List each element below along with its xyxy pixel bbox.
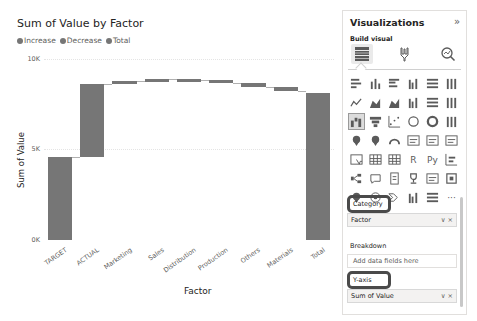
viz-goals-icon[interactable] <box>405 170 422 187</box>
analytics-magnifier-icon <box>440 46 456 62</box>
viz-gauge-icon[interactable] <box>386 132 403 149</box>
viz-card-icon[interactable] <box>405 132 422 149</box>
y-axis-well-label: Y-axis <box>347 271 391 289</box>
connector-line <box>266 87 274 88</box>
viz-clustered-bar-icon[interactable] <box>386 75 403 92</box>
connector-line <box>169 79 177 80</box>
waterfall-bar-production[interactable] <box>209 80 233 84</box>
x-axis-title: Factor <box>184 286 212 296</box>
viz-waterfall-icon[interactable] <box>348 113 365 130</box>
viz-funnel-icon[interactable] <box>367 113 384 130</box>
viz-stacked-column-icon[interactable] <box>367 75 384 92</box>
x-tick-label: TARGET <box>15 246 69 287</box>
pane-scrollbar[interactable] <box>460 197 463 307</box>
y-tick-label: 0K <box>14 236 40 244</box>
waterfall-bar-materials[interactable] <box>274 87 298 91</box>
visualizations-pane: Visualizations » Build visual RPy··· Cat… <box>342 10 467 315</box>
visual-type-gallery: RPy··· <box>348 75 460 207</box>
chart-title: Sum of Value by Factor <box>17 17 144 30</box>
legend-dot-icon <box>106 38 112 44</box>
legend-dot-icon <box>17 38 23 44</box>
legend-item-increase[interactable]: Increase <box>17 36 56 45</box>
viz-clustered-column-icon[interactable] <box>405 75 422 92</box>
viz-qa-icon[interactable] <box>367 170 384 187</box>
viz-100-bar-icon[interactable] <box>424 75 441 92</box>
viz-matrix-icon[interactable] <box>386 151 403 168</box>
legend-item-decrease[interactable]: Decrease <box>60 36 102 45</box>
waterfall-bar-target[interactable] <box>48 157 72 240</box>
viz-power-apps-icon[interactable] <box>443 170 460 187</box>
waterfall-chart-visual[interactable]: Sum of Value by Factor Increase Decrease… <box>0 0 338 321</box>
breakdown-drop-zone[interactable]: Add data fields here <box>347 254 457 268</box>
paint-brush-icon <box>397 46 413 62</box>
connector-line <box>201 80 209 81</box>
chart-legend: Increase Decrease Total <box>17 36 130 45</box>
viz-multi-row-card-icon[interactable] <box>424 132 441 149</box>
legend-label: Increase <box>24 36 56 45</box>
pane-mode-tabs <box>349 44 461 66</box>
fields-grid-icon <box>354 46 370 62</box>
connector-line <box>72 157 80 158</box>
build-visual-tab[interactable] <box>351 44 373 64</box>
field-name: Sum of Value <box>351 290 394 302</box>
connector-line <box>104 84 112 85</box>
viz-py-icon[interactable]: Py <box>424 151 441 168</box>
viz-table-icon[interactable] <box>367 151 384 168</box>
legend-item-total[interactable]: Total <box>106 36 131 45</box>
connector-line <box>233 83 241 84</box>
field-wells: Category Factor ∨ × Breakdown Add data f… <box>347 195 457 307</box>
viz-area-icon[interactable] <box>367 94 384 111</box>
y-axis-field-sum-of-value[interactable]: Sum of Value ∨ × <box>347 289 457 303</box>
analytics-tab[interactable] <box>437 44 459 64</box>
viz-donut-icon[interactable] <box>424 113 441 130</box>
category-well-label: Category <box>347 195 391 213</box>
viz-ribbon-icon[interactable] <box>443 94 460 111</box>
viz-filled-map-icon[interactable] <box>367 132 384 149</box>
legend-dot-icon <box>60 38 66 44</box>
viz-stacked-area-icon[interactable] <box>386 94 403 111</box>
viz-line-clustered-column-icon[interactable] <box>424 94 441 111</box>
waterfall-bar-actual[interactable] <box>80 84 104 156</box>
field-name: Factor <box>351 214 371 226</box>
category-field-factor[interactable]: Factor ∨ × <box>347 213 457 227</box>
pane-title: Visualizations <box>350 17 424 28</box>
plot-area <box>44 59 334 240</box>
viz-kpi-icon[interactable] <box>443 132 460 149</box>
viz-stacked-bar-icon[interactable] <box>348 75 365 92</box>
legend-label: Decrease <box>67 36 102 45</box>
y-axis-title: Sum of Value <box>16 125 26 195</box>
format-visual-tab[interactable] <box>394 44 416 64</box>
legend-label: Total <box>113 36 131 45</box>
viz-key-influencers-icon[interactable] <box>443 151 460 168</box>
viz-map-icon[interactable] <box>348 132 365 149</box>
viz-smart-narrative-icon[interactable] <box>386 170 403 187</box>
y-tick-label: 10K <box>14 55 40 63</box>
viz-r-icon[interactable]: R <box>405 151 422 168</box>
viz-treemap-icon[interactable] <box>443 113 460 130</box>
collapse-pane-icon[interactable]: » <box>454 16 460 27</box>
viz-slicer-icon[interactable] <box>348 151 365 168</box>
viz-paginated-icon[interactable] <box>424 170 441 187</box>
breakdown-well-label: Breakdown <box>347 239 457 254</box>
field-actions-icon[interactable]: ∨ × <box>441 290 453 302</box>
viz-scatter-icon[interactable] <box>386 113 403 130</box>
waterfall-bar-sales[interactable] <box>145 79 169 82</box>
field-actions-icon[interactable]: ∨ × <box>441 214 453 226</box>
connector-line <box>298 91 306 92</box>
waterfall-bar-total[interactable] <box>306 93 330 240</box>
build-visual-label: Build visual <box>350 35 393 43</box>
waterfall-bar-others[interactable] <box>241 83 265 87</box>
waterfall-bar-distribution[interactable] <box>177 79 201 82</box>
viz-pie-icon[interactable] <box>405 113 422 130</box>
waterfall-bar-marketing[interactable] <box>112 81 136 85</box>
viz-100-column-icon[interactable] <box>443 75 460 92</box>
viz-line-stacked-column-icon[interactable] <box>405 94 422 111</box>
viz-decomposition-tree-icon[interactable] <box>348 170 365 187</box>
viz-line-icon[interactable] <box>348 94 365 111</box>
connector-line <box>137 81 145 82</box>
